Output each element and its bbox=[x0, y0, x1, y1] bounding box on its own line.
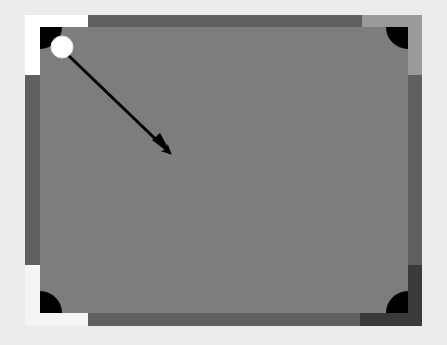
cue-ball[interactable] bbox=[51, 36, 73, 58]
aim-overlay bbox=[0, 0, 447, 345]
arrow-head-icon bbox=[152, 133, 172, 155]
